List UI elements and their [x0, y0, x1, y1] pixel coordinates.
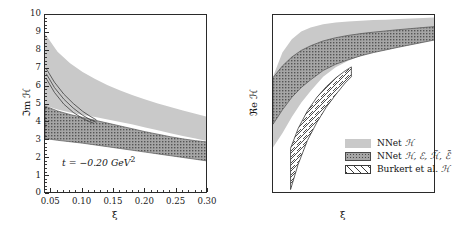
legend: NNet ℋNNet ℋ, ℰ, ℋ̃, ℰ̃Burkert et al. ℋ [345, 138, 450, 175]
y-tick-label: 3 [17, 135, 41, 144]
x-tick-label: 0.10 [68, 197, 96, 206]
x-tick-label: 0.20 [130, 197, 158, 206]
x-axis-label-left: ξ [112, 209, 118, 220]
legend-label-prefix: Burkert et al. [377, 164, 441, 174]
x-tick-mark [207, 188, 208, 192]
legend-label-nnet-h-e-ht-et: NNet ℋ, ℰ, ℋ̃, ℰ̃ [377, 152, 450, 161]
x-tick-label: 0.15 [99, 197, 127, 206]
legend-label-burkert-h: Burkert et al. ℋ [377, 165, 450, 174]
x-tick-label: 0.25 [162, 197, 190, 206]
y-axis-label-left: ℑm ℋ [21, 73, 32, 133]
y-tick-label: 8 [17, 45, 41, 54]
y-tick-label: 0 [17, 188, 41, 197]
legend-label-symbol: ℋ [441, 164, 450, 174]
t-value-annotation: t = −0.20 GeV2 [62, 155, 135, 168]
legend-label-prefix: NNet [377, 151, 405, 161]
legend-swatch-burkert-h [345, 165, 371, 174]
y-tick-label: 1 [17, 171, 41, 180]
y-axis-label-right: ℜe ℋ [248, 73, 259, 133]
x-tick-label: 0.05 [36, 197, 64, 206]
y-tick-label: 2 [17, 153, 41, 162]
y-tick-label: 7 [17, 63, 41, 72]
panel-real-part: −10−9−8−7−6−5−4−3−2−100.050.100.150.200.… [229, 0, 458, 235]
x-axis-label-right: ξ [340, 209, 346, 220]
legend-item-burkert-h[interactable]: Burkert et al. ℋ [345, 165, 450, 175]
legend-label-nnet-h: NNet ℋ [377, 139, 414, 148]
y-tick-label: 9 [17, 27, 41, 36]
y-tick-label: 10 [17, 9, 41, 18]
legend-label-symbol: ℋ, ℰ, ℋ̃, ℰ̃ [405, 151, 450, 161]
legend-label-prefix: NNet [377, 138, 405, 148]
legend-swatch-nnet-h [345, 139, 371, 148]
panel-imaginary-part: 0123456789100.050.100.150.200.250.30 ℑm … [0, 0, 229, 235]
annotation-exponent: 2 [131, 155, 136, 164]
legend-swatch-nnet-h-e-ht-et [345, 152, 371, 161]
y-tick-mark [45, 193, 49, 194]
legend-item-nnet-h[interactable]: NNet ℋ [345, 138, 450, 148]
legend-item-nnet-h-e-ht-et[interactable]: NNet ℋ, ℰ, ℋ̃, ℰ̃ [345, 151, 450, 161]
legend-label-symbol: ℋ [405, 138, 414, 148]
annotation-text: t = −0.20 GeV [62, 157, 131, 168]
figure-container: 0123456789100.050.100.150.200.250.30 ℑm … [0, 0, 458, 235]
x-tick-label: 0.30 [193, 197, 221, 206]
